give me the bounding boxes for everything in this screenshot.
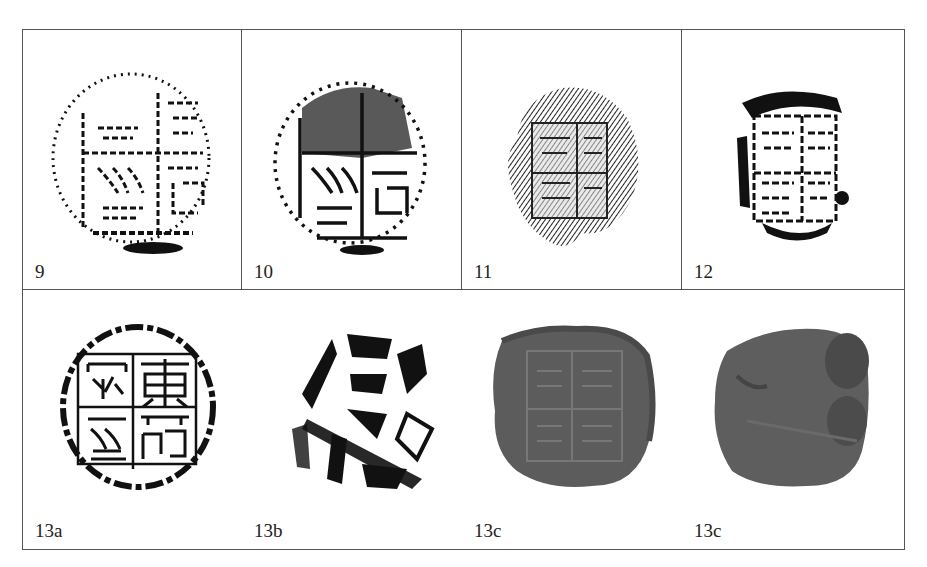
clay-sealing-photo: [707, 321, 882, 496]
row-divider: [23, 289, 904, 290]
figure-cell-13c-obverse: 13c: [462, 291, 682, 549]
seal-rubbing-image: [43, 58, 223, 258]
figure-cell-13c-reverse: 13c: [682, 291, 904, 549]
figure-label: 12: [694, 262, 713, 281]
figure-label: 13a: [35, 521, 62, 540]
figure-cell-13b: 13b: [242, 291, 462, 549]
figure-label: 9: [35, 262, 45, 281]
seal-rubbing-image: [272, 319, 442, 499]
figure-label: 13b: [254, 521, 283, 540]
figure-cell-9: 9: [23, 30, 241, 289]
figure-cell-10: 10: [242, 30, 461, 289]
seal-rubbing-image: [702, 58, 882, 258]
figure-label: 13c: [694, 521, 721, 540]
figure-label: 10: [254, 262, 273, 281]
seal-rubbing-image: [482, 58, 662, 258]
figure-label: 13c: [474, 521, 501, 540]
clay-sealing-photo: [487, 321, 662, 496]
figure-cell-13a: 13a: [23, 291, 242, 549]
figure-cell-12: 12: [682, 30, 904, 289]
figure-cell-11: 11: [462, 30, 681, 289]
seal-rubbing-image: [262, 58, 442, 258]
figure-plate: 9 10: [22, 29, 905, 550]
figure-label: 11: [474, 262, 492, 281]
seal-rubbing-image: [53, 319, 223, 499]
